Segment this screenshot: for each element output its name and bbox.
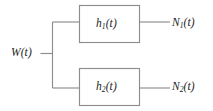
block-h1-subscript: 1: [102, 22, 106, 31]
block-h2-argument: (t): [106, 80, 117, 92]
input-symbol: W: [11, 46, 21, 58]
output-n2-argument: (t): [184, 80, 195, 92]
block-h1-argument: (t): [106, 17, 117, 29]
output-n1-symbol: N: [172, 16, 180, 28]
input-label: W(t): [11, 47, 32, 59]
output-n2-subscript: 2: [180, 85, 184, 94]
block-diagram-figure: W(t) h1(t) h2(t) N1(t) N2(t): [0, 0, 213, 111]
block-h1-symbol: h: [96, 17, 102, 29]
input-argument: (t): [21, 46, 32, 58]
block-h2-subscript: 2: [102, 85, 106, 94]
output-n2-label: N2(t): [172, 81, 195, 93]
output-n1-label: N1(t): [172, 17, 195, 29]
output-n2-symbol: N: [172, 80, 180, 92]
output-n1-subscript: 1: [180, 21, 184, 30]
block-h2-symbol: h: [96, 80, 102, 92]
output-n1-argument: (t): [184, 16, 195, 28]
block-h1-label: h1(t): [96, 18, 117, 30]
block-h2-label: h2(t): [96, 81, 117, 93]
